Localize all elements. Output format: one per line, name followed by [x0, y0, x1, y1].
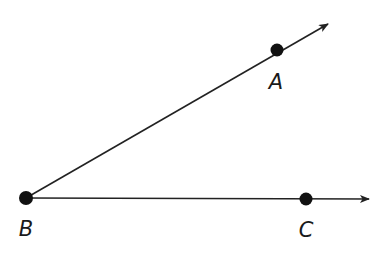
- point-c-label: C: [299, 220, 314, 241]
- point-c-dot: [300, 193, 313, 206]
- point-b-dot: [19, 191, 33, 205]
- ray-bc: [26, 198, 369, 199]
- point-a-label: A: [269, 72, 283, 93]
- point-a-dot: [271, 44, 284, 57]
- angle-diagram: [0, 0, 384, 253]
- vertex-b-label: B: [19, 219, 33, 240]
